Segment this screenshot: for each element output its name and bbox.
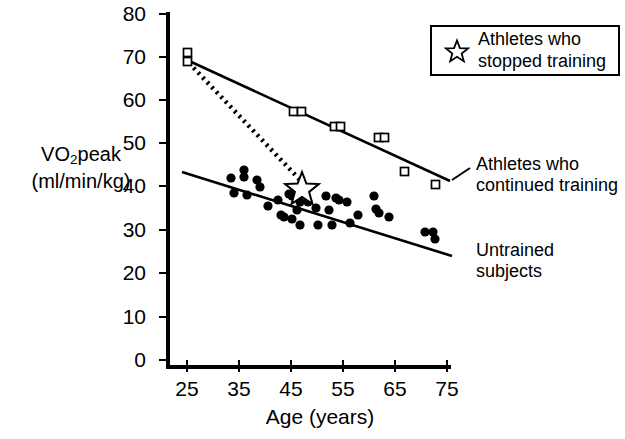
y-tick-10: 10 [100,306,146,327]
data-point-circle [353,210,362,219]
y-axis-title: VO2peak (ml/min/kg) [6,142,156,194]
data-point-circle [292,205,301,214]
data-point-square [184,58,192,66]
x-tick-65: 65 [375,378,415,399]
data-point-circle [430,234,439,243]
x-tick-45: 45 [271,378,311,399]
continued-training-leader-line [452,168,470,180]
data-point-circle [226,173,235,182]
data-point-circle [327,220,336,229]
x-axis-title: Age (years) [190,405,450,429]
data-point-square [432,181,440,189]
data-point-circle [384,212,393,221]
data-point-circle [229,188,238,197]
data-point-circle [342,197,351,206]
data-point-square [401,168,409,176]
legend-label: Athletes who stopped training [474,29,606,71]
data-point-circle [295,220,304,229]
data-point-circle [334,195,343,204]
star-outline-icon [440,38,474,64]
data-point-circle [369,191,378,200]
data-point-circle [324,205,333,214]
continued-training-trend-line [187,60,450,181]
x-tick-25: 25 [167,378,207,399]
y-tick-20: 20 [100,262,146,283]
data-point-circle [255,182,264,191]
data-point-square [337,123,345,131]
data-point-circle [239,172,248,181]
annotation-untrained-subjects: Untrained subjects [476,240,554,282]
data-point-circle [374,208,383,217]
data-point-circle [242,190,251,199]
y-axis-title-line2: (ml/min/kg) [32,170,131,192]
data-point-circle [313,220,322,229]
data-point-square [290,108,298,116]
data-point-circle [287,214,296,223]
x-tick-55: 55 [323,378,363,399]
data-point-circle [263,201,272,210]
y-tick-60: 60 [100,89,146,110]
y-tick-30: 30 [100,219,146,240]
data-point-square [298,108,306,116]
data-point-circle [279,212,288,221]
y-tick-70: 70 [100,46,146,67]
x-tick-35: 35 [219,378,259,399]
x-tick-75: 75 [427,378,467,399]
data-point-square [184,49,192,57]
data-point-circle [345,218,354,227]
chart-figure: 80 70 60 50 40 30 20 10 0 25 35 45 55 65… [0,0,625,439]
data-point-circle [273,195,282,204]
data-point-square [381,134,389,142]
stopped-training-dotted-line [189,63,302,182]
y-tick-80: 80 [100,3,146,24]
annotation-continued-training: Athletes who continued training [476,154,618,196]
y-axis-title-line1: VO2peak [41,143,121,165]
legend: Athletes who stopped training [430,25,620,76]
data-point-circle [321,191,330,200]
untrained-markers [226,165,439,243]
y-tick-0: 0 [100,349,146,370]
data-point-circle [420,227,429,236]
